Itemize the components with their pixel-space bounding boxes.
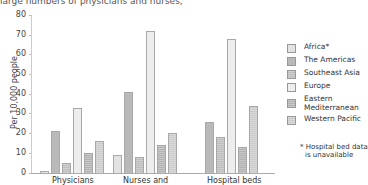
- x-label-nurses: Nurses and: [123, 176, 168, 185]
- bar: [73, 108, 82, 173]
- bar: [146, 31, 155, 173]
- y-tick: 30: [0, 109, 26, 117]
- y-tick: 10: [0, 149, 26, 157]
- bar: [157, 145, 166, 173]
- legend-swatch: [287, 116, 296, 125]
- y-tick: 50: [0, 70, 26, 78]
- y-tick: 80: [0, 11, 26, 19]
- caption-text: large numbers of physicians and nurses,: [0, 0, 183, 6]
- bar: [249, 106, 258, 173]
- bar: [62, 163, 71, 173]
- y-tick: 70: [0, 31, 26, 39]
- footnote: * Hospital bed data is unavailable: [300, 143, 368, 159]
- y-tick: 40: [0, 90, 26, 98]
- legend-swatch: [287, 70, 296, 79]
- bar: [216, 137, 225, 173]
- x-axis-line: [31, 173, 275, 174]
- y-tick: 0: [0, 169, 26, 177]
- bar: [238, 147, 247, 173]
- y-axis-line: [31, 15, 32, 173]
- bar: [168, 133, 177, 173]
- bar: [135, 157, 144, 173]
- bar: [51, 131, 60, 173]
- x-label-physicians: Physicians: [52, 176, 94, 185]
- x-label-hospital-beds: Hospital beds: [207, 176, 261, 185]
- legend-swatch: [287, 57, 296, 66]
- bar: [84, 153, 93, 173]
- bar: [205, 122, 214, 173]
- legend-swatch: [287, 99, 296, 108]
- bar: [40, 171, 49, 173]
- legend-swatch: [287, 44, 296, 53]
- bar: [227, 39, 236, 173]
- y-tick: 20: [0, 129, 26, 137]
- bar: [124, 92, 133, 173]
- legend-swatch: [287, 83, 296, 92]
- bar: [113, 155, 122, 173]
- y-tick: 60: [0, 50, 26, 58]
- bar: [95, 141, 104, 173]
